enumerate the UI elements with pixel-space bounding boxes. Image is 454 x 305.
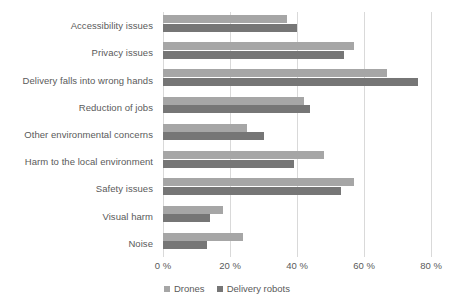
bar-group — [163, 203, 431, 230]
legend-item-delivery-robots: Delivery robots — [217, 283, 290, 294]
bar-delivery-robots — [163, 105, 310, 113]
bar-drones — [163, 124, 247, 132]
bar-group — [163, 175, 431, 202]
category-label: Visual harm — [0, 203, 158, 230]
x-tick-label: 80 % — [420, 260, 442, 271]
bar-delivery-robots — [163, 214, 210, 222]
bar-drones — [163, 69, 387, 77]
bar-group — [163, 12, 431, 39]
bar-delivery-robots — [163, 51, 344, 59]
legend-label: Delivery robots — [227, 283, 290, 294]
bar-group — [163, 121, 431, 148]
bar-delivery-robots — [163, 78, 418, 86]
bar-delivery-robots — [163, 24, 297, 32]
bar-delivery-robots — [163, 187, 341, 195]
x-axis-labels: 0 %20 %40 %60 %80 % — [163, 260, 431, 274]
bar-delivery-robots — [163, 132, 264, 140]
x-tick-label: 60 % — [353, 260, 375, 271]
category-axis-labels: Accessibility issues Privacy issues Deli… — [0, 12, 158, 257]
bar-group — [163, 66, 431, 93]
bar-group — [163, 230, 431, 257]
x-tick-label: 20 % — [219, 260, 241, 271]
bar-group — [163, 39, 431, 66]
bar-group — [163, 148, 431, 175]
legend-label: Drones — [174, 283, 205, 294]
category-label: Other environmental concerns — [0, 121, 158, 148]
legend-swatch-icon — [217, 286, 223, 292]
legend-item-drones: Drones — [164, 283, 205, 294]
bar-drones — [163, 151, 324, 159]
plot-area — [163, 12, 431, 257]
bar-drones — [163, 206, 223, 214]
bar-group — [163, 94, 431, 121]
category-label: Safety issues — [0, 175, 158, 202]
category-label: Noise — [0, 230, 158, 257]
bar-drones — [163, 233, 243, 241]
category-label: Delivery falls into wrong hands — [0, 66, 158, 93]
gridline — [431, 12, 432, 257]
bar-drones — [163, 178, 354, 186]
x-tick-label: 0 % — [155, 260, 171, 271]
bar-delivery-robots — [163, 160, 294, 168]
legend-swatch-icon — [164, 286, 170, 292]
category-label: Privacy issues — [0, 39, 158, 66]
bar-drones — [163, 42, 354, 50]
category-label: Harm to the local environment — [0, 148, 158, 175]
bar-drones — [163, 97, 304, 105]
x-tick-label: 40 % — [286, 260, 308, 271]
chart-legend: Drones Delivery robots — [0, 283, 454, 294]
category-label: Accessibility issues — [0, 12, 158, 39]
category-label: Reduction of jobs — [0, 94, 158, 121]
bar-rows — [163, 12, 431, 257]
bar-delivery-robots — [163, 241, 207, 249]
bar-chart: Accessibility issues Privacy issues Deli… — [0, 0, 454, 305]
bar-drones — [163, 15, 287, 23]
